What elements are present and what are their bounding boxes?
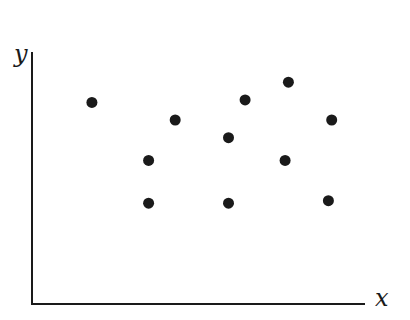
data-point-5 <box>223 132 234 143</box>
data-points <box>86 77 337 209</box>
data-point-1 <box>86 97 97 108</box>
data-point-4 <box>170 115 181 126</box>
x-axis-label: x <box>375 284 389 312</box>
data-point-3 <box>143 198 154 209</box>
data-point-2 <box>143 155 154 166</box>
y-axis-label: y <box>13 40 28 68</box>
data-point-8 <box>283 77 294 88</box>
data-point-7 <box>240 94 251 105</box>
data-point-10 <box>326 115 337 126</box>
data-point-9 <box>280 155 291 166</box>
scatter-chart: y x <box>0 0 410 320</box>
data-point-11 <box>323 195 334 206</box>
data-point-6 <box>223 198 234 209</box>
